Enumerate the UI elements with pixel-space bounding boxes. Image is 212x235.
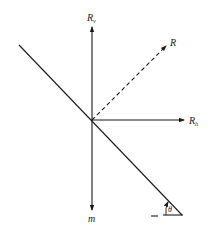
- force-diagram: Rv R Rh m θ: [0, 0, 212, 235]
- inclined-rod: [19, 45, 182, 215]
- theta-label: θ: [168, 205, 172, 214]
- m-label: m: [88, 213, 95, 224]
- r-label: R: [169, 37, 176, 48]
- resultant-arrow: [92, 46, 166, 120]
- rh-label: Rh: [188, 115, 198, 127]
- rv-label: Rv: [86, 12, 96, 24]
